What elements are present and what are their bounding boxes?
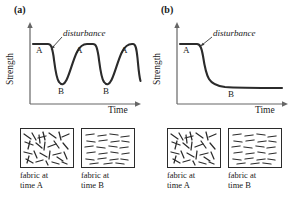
panel-b-label-B: B	[228, 89, 234, 99]
panel-a-chart: Strength Time disturbance A A A B B	[0, 16, 146, 120]
panel-a-label-A-2: A	[76, 45, 83, 55]
panel-a-label-B-2: B	[103, 86, 109, 96]
y-axis-arrow	[174, 22, 179, 28]
panel-a-label-A-1: A	[36, 45, 43, 55]
y-axis-arrow	[27, 22, 32, 28]
panel-a-disturbance-label: disturbance	[63, 28, 106, 38]
panel-a-x-axis-label: Time	[108, 105, 128, 115]
panel-b-fabric-A-caption: fabric at time A	[167, 171, 223, 190]
panel-b-fabric-A: fabric at time A	[167, 128, 223, 190]
panel-a-fabric-B-caption: fabric at time B	[81, 171, 137, 190]
panel-b-y-axis-label: Strength	[152, 38, 162, 100]
disturbance-arrow-line	[53, 37, 63, 48]
fabric-aligned-icon	[229, 129, 281, 167]
fabric-random-icon	[168, 129, 220, 167]
x-axis-arrow	[135, 101, 141, 106]
panel-b-x-axis-label: Time	[255, 105, 275, 115]
panel-a-fabric-B-box	[81, 128, 135, 168]
panel-a-fabric-A-box	[20, 128, 74, 168]
fabric-random-icon	[21, 129, 73, 167]
panel-b-label: (b)	[161, 4, 173, 15]
strength-curve-b	[180, 44, 282, 88]
panel-b-fabric-B-caption: fabric at time B	[228, 171, 284, 190]
panel-a-fabric-B: fabric at time B	[81, 128, 137, 190]
panel-b-fabric-row: fabric at time A	[147, 128, 293, 208]
panel-a-fabric-row: fabric at time A	[0, 128, 146, 208]
panel-b-fabric-B-box	[228, 128, 282, 168]
panel-a-fabric-A: fabric at time A	[20, 128, 76, 190]
panel-a-label-B-1: B	[58, 86, 64, 96]
panel-a-label: (a)	[14, 4, 26, 15]
panel-b: (b) Strength Time disturbance A B	[147, 0, 293, 211]
panel-a-label-A-3: A	[121, 45, 128, 55]
panel-b-fabric-B: fabric at time B	[228, 128, 284, 190]
fabric-aligned-icon	[82, 129, 134, 167]
panel-b-disturbance-label: disturbance	[213, 28, 256, 38]
panel-a: (a) Strength Time disturbance A A A B B	[0, 0, 146, 211]
x-axis-arrow	[282, 101, 288, 106]
panel-b-label-A: A	[183, 45, 190, 55]
panel-b-chart: Strength Time disturbance A B	[147, 16, 293, 120]
panel-a-y-axis-label: Strength	[5, 38, 15, 100]
panel-a-fabric-A-caption: fabric at time A	[20, 171, 76, 190]
panel-b-fabric-A-box	[167, 128, 221, 168]
